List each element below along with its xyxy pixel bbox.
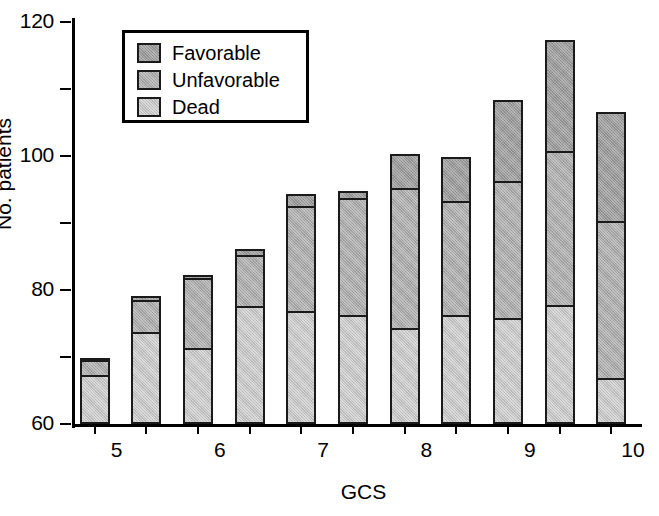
bar-stack[interactable] [596,22,626,424]
y-tick-label: 80 [31,277,54,301]
legend-swatch-unfavorable [137,70,161,90]
x-tick-label: 10 [621,438,644,462]
y-tick: 40 [60,289,71,291]
bar-segment-dead[interactable] [80,375,110,424]
legend-item-unfavorable[interactable]: Unfavorable [137,66,306,93]
bar-stack[interactable] [441,22,471,424]
x-tick: 6 [145,424,147,434]
bar-segment-dead[interactable] [493,318,523,424]
x-tick: 12 [455,424,457,434]
bar-segment-favorable[interactable] [286,194,316,208]
bar-segment-dead[interactable] [183,348,213,424]
x-tick: 5 [94,424,96,434]
bar-segment-unfavorable[interactable] [493,181,523,320]
x-axis-line [72,424,642,427]
bar-segment-dead[interactable] [441,315,471,424]
x-tick-label: 7 [317,438,329,462]
bar-segment-dead[interactable] [286,311,316,424]
x-tick: 8 [249,424,251,434]
chart-figure: 020406080100120 56789101112131415 No. pa… [0,0,659,516]
bar-segment-dead[interactable] [545,305,575,424]
bar-segment-favorable[interactable] [596,112,626,223]
y-tick: 20 [60,356,71,358]
bar-segment-favorable[interactable] [131,296,161,301]
y-tick-label: 120 [20,9,54,33]
x-tick: 10 [352,424,354,434]
bar-segment-favorable[interactable] [545,40,575,153]
y-axis-label: No. patients [0,118,16,230]
bar-segment-unfavorable[interactable] [131,300,161,334]
x-tick: 14 [559,424,561,434]
bar-segment-dead[interactable] [338,315,368,424]
bar-segment-unfavorable[interactable] [545,151,575,307]
bar-segment-favorable[interactable] [235,249,265,256]
bar-stack[interactable] [80,22,110,424]
bar-segment-unfavorable[interactable] [235,255,265,309]
bar-segment-dead[interactable] [596,378,626,424]
bar-segment-unfavorable[interactable] [596,221,626,380]
x-axis-label: GCS [0,480,659,504]
x-tick-label: 8 [421,438,433,462]
legend-label: Unfavorable [172,70,280,90]
legend-swatch-dead [137,97,161,117]
x-tick-label: 9 [524,438,536,462]
legend-label: Dead [172,97,220,117]
y-tick: 120 [60,21,71,23]
legend-swatch-favorable [137,43,161,63]
bar-stack[interactable] [493,22,523,424]
legend: FavorableUnfavorableDead [122,30,309,123]
y-tick: 100 [60,88,71,90]
bar-segment-favorable[interactable] [80,358,110,362]
legend-item-dead[interactable]: Dead [137,93,306,120]
y-tick: 0 [60,423,71,425]
bar-stack[interactable] [390,22,420,424]
bar-segment-favorable[interactable] [338,191,368,200]
legend-item-favorable[interactable]: Favorable [137,39,306,66]
y-tick: 80 [60,155,71,157]
x-tick: 9 [300,424,302,434]
bar-segment-unfavorable[interactable] [441,201,471,317]
bar-segment-unfavorable[interactable] [338,198,368,317]
bar-segment-favorable[interactable] [493,100,523,182]
bar-segment-favorable[interactable] [390,154,420,190]
bar-segment-unfavorable[interactable] [390,188,420,331]
y-tick-label: 60 [31,411,54,435]
bar-segment-favorable[interactable] [441,157,471,203]
bar-segment-unfavorable[interactable] [286,206,316,314]
x-tick: 15 [610,424,612,434]
bar-stack[interactable] [338,22,368,424]
x-tick: 7 [197,424,199,434]
x-tick: 11 [404,424,406,434]
bar-segment-unfavorable[interactable] [183,278,213,350]
x-axis-label-text: GCS [341,480,387,503]
x-tick-label: 6 [214,438,226,462]
y-tick: 60 [60,222,71,224]
bar-segment-favorable[interactable] [183,275,213,280]
y-tick-label: 100 [20,143,54,167]
x-tick: 13 [507,424,509,434]
legend-label: Favorable [172,43,261,63]
bar-segment-dead[interactable] [131,332,161,424]
bar-segment-dead[interactable] [235,306,265,424]
bar-segment-unfavorable[interactable] [80,360,110,377]
bar-segment-dead[interactable] [390,328,420,424]
x-tick-label: 5 [111,438,123,462]
bar-stack[interactable] [545,22,575,424]
